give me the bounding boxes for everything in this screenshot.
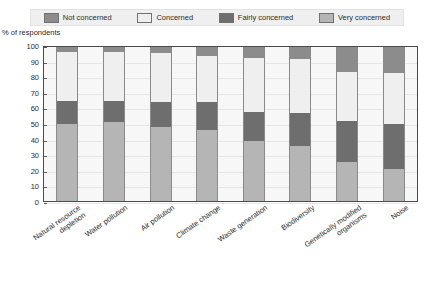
y-tick-label: 60 bbox=[0, 104, 43, 113]
x-axis-label: Biodiversity bbox=[280, 203, 317, 232]
chart-legend: Not concernedConcernedFairly concernedVe… bbox=[30, 9, 404, 26]
bar-segment bbox=[384, 73, 404, 124]
legend-item-label: Concerned bbox=[156, 13, 193, 22]
bar-8[interactable] bbox=[383, 47, 405, 201]
plot-area bbox=[43, 46, 418, 202]
bar-segment bbox=[337, 121, 357, 163]
legend-swatch-icon bbox=[319, 13, 334, 23]
legend-item: Not concerned bbox=[44, 13, 112, 23]
y-tick-label: 10 bbox=[0, 182, 43, 191]
y-tick-label: 50 bbox=[0, 120, 43, 129]
chart-container: Not concernedConcernedFairly concernedVe… bbox=[0, 0, 430, 285]
bar-segment bbox=[290, 59, 310, 113]
x-axis-label-line: Water pollution bbox=[83, 203, 129, 239]
bar-segment bbox=[244, 47, 264, 58]
x-axis-label-line: Noise bbox=[389, 203, 410, 221]
y-tick-label: 70 bbox=[0, 88, 43, 97]
bar-7[interactable] bbox=[336, 47, 358, 201]
legend-item: Concerned bbox=[137, 13, 193, 23]
legend-swatch-icon bbox=[137, 13, 152, 23]
bar-segment bbox=[57, 52, 77, 101]
bar-segment bbox=[104, 122, 124, 201]
bar-segment bbox=[197, 102, 217, 130]
bar-segment bbox=[151, 53, 171, 102]
bar-segment bbox=[337, 47, 357, 72]
x-axis-label: Noise bbox=[389, 203, 410, 221]
bar-segment bbox=[244, 58, 264, 112]
bar-4[interactable] bbox=[196, 47, 218, 201]
bar-segment bbox=[384, 169, 404, 201]
bar-segment bbox=[104, 52, 124, 101]
y-tick-label: 30 bbox=[0, 151, 43, 160]
y-tick-label: 20 bbox=[0, 166, 43, 175]
legend-item: Very concerned bbox=[319, 13, 390, 23]
bar-segment bbox=[151, 127, 171, 201]
bar-6[interactable] bbox=[289, 47, 311, 201]
x-axis-label-line: Biodiversity bbox=[280, 203, 317, 232]
bar-segment bbox=[337, 162, 357, 201]
legend-item-label: Not concerned bbox=[63, 13, 112, 22]
bar-segment bbox=[290, 113, 310, 145]
x-axis-label-line: Air pollution bbox=[138, 203, 175, 233]
x-axis-label-line: Waste generation bbox=[216, 203, 269, 244]
bar-segment bbox=[384, 124, 404, 169]
bar-2[interactable] bbox=[103, 47, 125, 201]
bar-segment bbox=[244, 141, 264, 201]
x-axis-label: Waste generation bbox=[216, 203, 269, 244]
legend-swatch-icon bbox=[219, 13, 234, 23]
y-tick-label: 90 bbox=[0, 57, 43, 66]
bar-5[interactable] bbox=[243, 47, 265, 201]
x-axis-label: Natural resourcedepletion bbox=[31, 203, 87, 250]
legend-swatch-icon bbox=[44, 13, 59, 23]
bar-segment bbox=[57, 124, 77, 201]
x-axis-label: Air pollution bbox=[138, 203, 175, 233]
bar-segment bbox=[197, 130, 217, 201]
bar-segment bbox=[244, 112, 264, 141]
bar-3[interactable] bbox=[150, 47, 172, 201]
bar-segment bbox=[197, 47, 217, 56]
bar-segment bbox=[337, 72, 357, 121]
bar-segment bbox=[197, 56, 217, 102]
bar-segment bbox=[104, 101, 124, 123]
bar-segment bbox=[57, 101, 77, 124]
y-tick-label: 80 bbox=[0, 73, 43, 82]
bar-segment bbox=[384, 47, 404, 73]
x-axis-label-line: Climate change bbox=[175, 203, 223, 240]
legend-item-label: Fairly concerned bbox=[238, 13, 293, 22]
y-tick-label: 40 bbox=[0, 135, 43, 144]
y-axis-title: % of respondents bbox=[2, 28, 60, 37]
x-axis-labels: Natural resourcedepletionWater pollution… bbox=[43, 203, 418, 285]
x-axis-label: Water pollution bbox=[83, 203, 129, 239]
y-tick-label: 0 bbox=[0, 198, 43, 207]
bar-segment bbox=[151, 102, 171, 127]
bar-segment bbox=[290, 146, 310, 201]
legend-item: Fairly concerned bbox=[219, 13, 293, 23]
bar-group bbox=[44, 47, 417, 201]
legend-item-label: Very concerned bbox=[338, 13, 390, 22]
bar-1[interactable] bbox=[56, 47, 78, 201]
bar-segment bbox=[290, 47, 310, 59]
y-tick-label: 100 bbox=[0, 42, 43, 51]
x-axis-label: Climate change bbox=[175, 203, 223, 240]
